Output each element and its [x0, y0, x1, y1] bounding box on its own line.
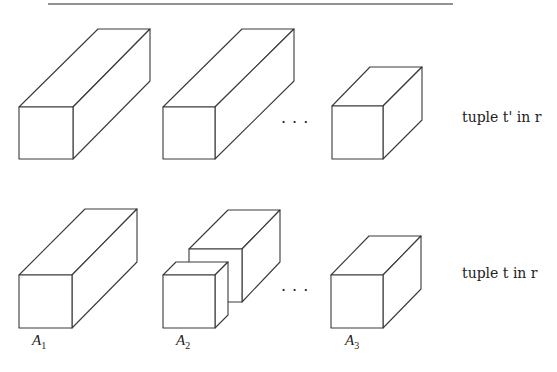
- attribute-label-a1: A1: [32, 332, 46, 351]
- row1-ellipsis: ...: [281, 108, 314, 127]
- tuple-diagram: [0, 0, 557, 372]
- row1-box3: [332, 67, 422, 159]
- row2-box1: [19, 209, 137, 328]
- row1-box1: [19, 29, 150, 159]
- row1-box2: [163, 29, 294, 159]
- row1-label: tuple t' in r: [462, 109, 541, 125]
- row2-label: tuple t in r: [462, 265, 538, 281]
- attribute-label-a2: A2: [176, 332, 190, 351]
- attribute-label-a3: A3: [345, 332, 359, 351]
- row2-ellipsis: ...: [281, 276, 314, 295]
- row2-box3: [331, 236, 421, 328]
- row2-box2-front: [163, 262, 228, 328]
